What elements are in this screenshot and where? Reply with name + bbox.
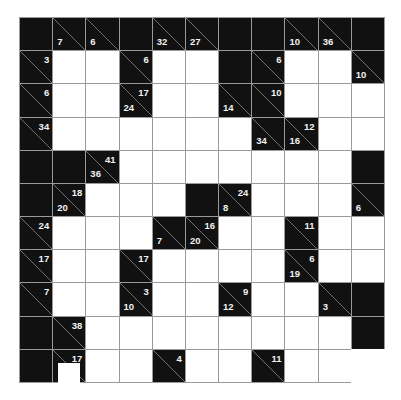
entry-cell[interactable] xyxy=(120,350,152,382)
entry-cell[interactable] xyxy=(319,250,351,282)
clue-cell: 4 xyxy=(153,350,185,382)
entry-cell[interactable] xyxy=(186,350,218,382)
entry-cell[interactable] xyxy=(219,151,251,183)
clue-cell: 1216 xyxy=(285,118,317,150)
entry-cell[interactable] xyxy=(53,118,85,150)
entry-cell[interactable] xyxy=(86,350,118,382)
entry-cell[interactable] xyxy=(120,184,152,216)
entry-cell[interactable] xyxy=(86,51,118,83)
clue-cell: 619 xyxy=(285,250,317,282)
entry-cell[interactable] xyxy=(252,250,284,282)
entry-cell[interactable] xyxy=(285,151,317,183)
entry-cell[interactable] xyxy=(252,217,284,249)
entry-cell[interactable] xyxy=(319,151,351,183)
clue-cell: 7 xyxy=(20,283,52,315)
entry-cell[interactable] xyxy=(153,184,185,216)
clue-cell: 3 xyxy=(20,51,52,83)
entry-cell[interactable] xyxy=(86,118,118,150)
entry-cell[interactable] xyxy=(319,350,351,382)
entry-cell[interactable] xyxy=(252,283,284,315)
entry-cell[interactable] xyxy=(86,317,118,349)
entry-cell[interactable] xyxy=(285,350,317,382)
entry-cell[interactable] xyxy=(186,250,218,282)
entry-cell[interactable] xyxy=(186,84,218,116)
entry-cell[interactable] xyxy=(153,118,185,150)
clue-cell: 36 xyxy=(319,18,351,50)
entry-cell[interactable] xyxy=(219,317,251,349)
entry-cell[interactable] xyxy=(285,84,317,116)
entry-cell[interactable] xyxy=(53,250,85,282)
down-sum: 36 xyxy=(323,37,334,47)
entry-cell[interactable] xyxy=(53,283,85,315)
entry-cell[interactable] xyxy=(120,317,152,349)
entry-cell[interactable] xyxy=(352,84,384,116)
entry-cell[interactable] xyxy=(86,84,118,116)
entry-cell[interactable] xyxy=(186,317,218,349)
across-sum: 24 xyxy=(238,188,249,198)
clue-cell: 912 xyxy=(219,283,251,315)
entry-cell[interactable] xyxy=(153,151,185,183)
entry-cell[interactable] xyxy=(186,151,218,183)
entry-cell[interactable] xyxy=(352,118,384,150)
across-sum: 17 xyxy=(72,354,83,364)
entry-cell[interactable] xyxy=(86,184,118,216)
across-sum: 41 xyxy=(105,155,116,165)
clue-cell: 1820 xyxy=(53,184,85,216)
entry-cell[interactable] xyxy=(319,217,351,249)
entry-cell[interactable] xyxy=(252,184,284,216)
across-sum: 11 xyxy=(271,354,281,364)
blocked-cell xyxy=(120,18,152,50)
white-patch xyxy=(58,363,80,383)
entry-cell[interactable] xyxy=(53,217,85,249)
entry-cell[interactable] xyxy=(120,217,152,249)
down-sum: 14 xyxy=(223,103,234,113)
across-sum: 17 xyxy=(138,88,149,98)
entry-cell[interactable] xyxy=(285,317,317,349)
entry-cell[interactable] xyxy=(352,250,384,282)
entry-cell[interactable] xyxy=(153,84,185,116)
entry-cell[interactable] xyxy=(319,118,351,150)
entry-cell[interactable] xyxy=(186,118,218,150)
entry-cell[interactable] xyxy=(285,283,317,315)
entry-cell[interactable] xyxy=(352,217,384,249)
entry-cell[interactable] xyxy=(252,151,284,183)
entry-cell[interactable] xyxy=(153,317,185,349)
entry-cell[interactable] xyxy=(86,283,118,315)
entry-cell[interactable] xyxy=(319,51,351,83)
entry-cell[interactable] xyxy=(219,350,251,382)
entry-cell[interactable] xyxy=(153,283,185,315)
entry-cell[interactable] xyxy=(252,317,284,349)
clue-cell: 248 xyxy=(219,184,251,216)
entry-cell[interactable] xyxy=(86,250,118,282)
entry-cell[interactable] xyxy=(186,283,218,315)
across-sum: 6 xyxy=(276,55,281,65)
down-sum: 19 xyxy=(289,269,300,279)
entry-cell[interactable] xyxy=(352,350,384,382)
down-sum: 12 xyxy=(223,302,234,312)
entry-cell[interactable] xyxy=(319,184,351,216)
clue-cell: 34 xyxy=(20,118,52,150)
entry-cell[interactable] xyxy=(120,118,152,150)
entry-cell[interactable] xyxy=(120,151,152,183)
blocked-cell xyxy=(252,18,284,50)
across-sum: 9 xyxy=(243,287,248,297)
clue-cell: 3 xyxy=(319,283,351,315)
entry-cell[interactable] xyxy=(319,317,351,349)
across-sum: 34 xyxy=(39,122,50,132)
entry-cell[interactable] xyxy=(53,51,85,83)
entry-cell[interactable] xyxy=(285,184,317,216)
entry-cell[interactable] xyxy=(153,250,185,282)
blocked-cell xyxy=(20,151,52,183)
entry-cell[interactable] xyxy=(219,118,251,150)
entry-cell[interactable] xyxy=(219,217,251,249)
entry-cell[interactable] xyxy=(186,51,218,83)
clue-cell: 17 xyxy=(20,250,52,282)
entry-cell[interactable] xyxy=(153,51,185,83)
entry-cell[interactable] xyxy=(86,217,118,249)
entry-cell[interactable] xyxy=(319,84,351,116)
clue-cell: 7 xyxy=(53,18,85,50)
entry-cell[interactable] xyxy=(219,250,251,282)
entry-cell[interactable] xyxy=(53,84,85,116)
entry-cell[interactable] xyxy=(285,51,317,83)
blocked-cell xyxy=(53,151,85,183)
